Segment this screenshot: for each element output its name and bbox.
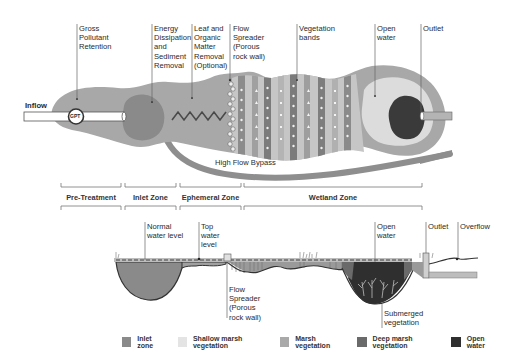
label-leaf-organic-removal: Leaf and Organic Matter Removal (Optiona… <box>194 24 227 70</box>
label-section-outlet: Outlet <box>428 222 448 231</box>
label-flow-spreader: Flow Spreader (Porous rock wall) <box>233 24 265 61</box>
legend-item-open-water: Open water <box>451 335 499 349</box>
label-top-water-level: Top water level <box>201 222 220 250</box>
label-gpt: GPT <box>70 112 80 121</box>
legend-swatch <box>451 337 460 347</box>
legend-label: Marsh vegetation <box>295 335 344 349</box>
legend-label: Deep marsh vegetation <box>373 335 439 349</box>
label-overflow: Overflow <box>460 222 490 231</box>
legend-swatch <box>357 337 366 347</box>
section-view <box>114 252 478 304</box>
zone-ephemeral: Ephemeral Zone <box>180 193 241 202</box>
outlet-structure <box>423 253 429 278</box>
legend-item-inlet-zone: Inlet zone <box>122 335 165 349</box>
open-water-pool <box>389 96 425 140</box>
label-normal-water-level: Normal water level <box>147 222 183 240</box>
label-section-open-water: Open water <box>377 222 396 240</box>
legend-item-deep-marsh: Deep marsh vegetation <box>357 335 438 349</box>
legend-swatch <box>122 337 131 347</box>
legend-swatch <box>178 337 187 347</box>
label-outlet: Outlet <box>423 24 443 33</box>
label-high-flow-bypass: High Flow Bypass <box>215 158 276 167</box>
zone-wetland: Wetland Zone <box>244 193 422 202</box>
outlet-pipe <box>420 112 452 120</box>
zone-pre-treatment: Pre-Treatment <box>61 193 121 202</box>
legend-label: Open water <box>467 335 499 349</box>
label-vegetation-bands: Vegetation bands <box>299 24 335 42</box>
legend-item-shallow-marsh: Shallow marsh vegetation <box>178 335 267 349</box>
legend: Inlet zone Shallow marsh vegetation Mars… <box>122 335 512 349</box>
zone-inlet: Inlet Zone <box>125 193 176 202</box>
label-section-flow-spreader: Flow Spreader (Porous rock wall) <box>229 285 261 322</box>
legend-swatch <box>280 337 289 347</box>
label-gross-pollutant-retention: Gross Pollutant Retention <box>79 24 112 52</box>
label-inflow: Inflow <box>25 101 47 110</box>
label-submerged-vegetation: Submerged vegetation <box>384 309 423 327</box>
legend-item-marsh: Marsh vegetation <box>280 335 344 349</box>
legend-label: Inlet zone <box>137 335 164 349</box>
vegetation-bands <box>230 60 370 170</box>
label-open-water: Open water <box>377 24 396 42</box>
label-energy-dissipation: Energy Dissipation and Sediment Removal <box>154 24 191 70</box>
legend-label: Shallow marsh vegetation <box>193 335 267 349</box>
